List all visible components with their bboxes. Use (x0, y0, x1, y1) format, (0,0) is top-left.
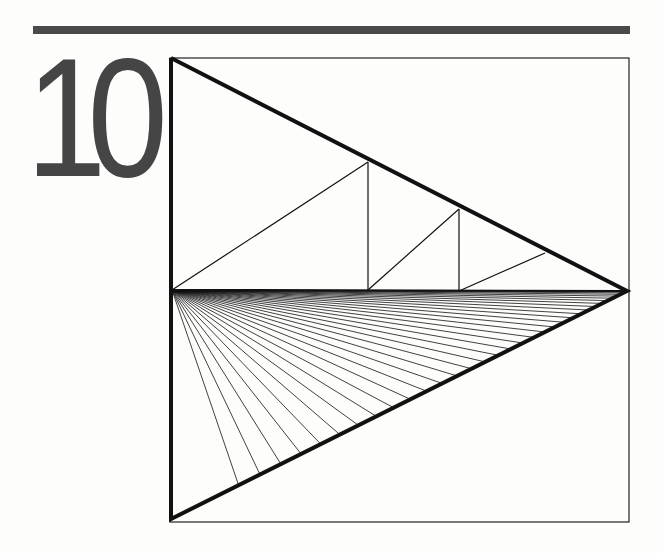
fan-line (172, 290, 239, 485)
upper-step-triangles (172, 162, 545, 291)
geometric-diagram (0, 0, 663, 553)
fan-line (172, 290, 457, 376)
step-diagonal (368, 209, 459, 290)
fan-line (172, 290, 376, 416)
fan-line (172, 290, 301, 454)
step-diagonal (459, 253, 545, 291)
fan-lines (172, 290, 627, 485)
midline (171, 290, 627, 291)
fan-line (172, 290, 442, 383)
fan-line (172, 290, 394, 408)
fan-line (172, 290, 281, 464)
step-diagonal (172, 162, 368, 290)
fan-line (172, 290, 472, 369)
fan-line (172, 290, 358, 425)
fan-line (172, 290, 260, 475)
fan-line (172, 290, 555, 327)
fan-line (172, 290, 321, 444)
main-triangle (171, 58, 627, 519)
